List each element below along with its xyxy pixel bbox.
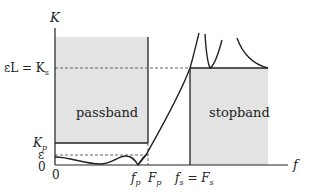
filter-spec-diagram: K f εL = Ks Kp ε 0 0 fp Fp fs = Fs passb…: [0, 0, 316, 195]
x-axis-label: f: [292, 157, 300, 172]
y-tick-zero: 0: [38, 160, 46, 174]
y-axis-label: K: [49, 10, 61, 25]
response-curve-passband: [55, 155, 146, 165]
passband-region: [55, 37, 148, 143]
x-tick-fp: fp: [130, 171, 141, 187]
response-curve-stopband-lobe: [205, 34, 222, 68]
x-tick-Fp: Fp: [147, 171, 161, 187]
passband-label: passband: [76, 105, 138, 120]
y-tick-eL-Ks: εL = Ks: [4, 61, 49, 77]
x-tick-fs-Fs: fs = Fs: [174, 171, 214, 187]
response-curve-stopband-tail: [237, 38, 268, 68]
stopband-label: stopband: [209, 105, 270, 120]
x-tick-zero: 0: [52, 168, 60, 182]
